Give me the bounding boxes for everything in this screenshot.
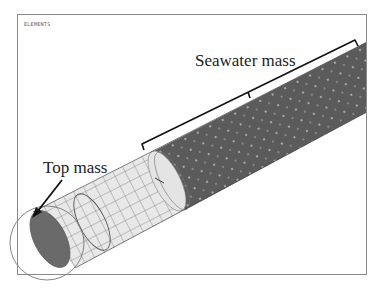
- seawater-mass-label: Seawater mass: [195, 51, 296, 71]
- top-mass-label: Top mass: [43, 158, 107, 178]
- cylinder-model: [0, 0, 384, 292]
